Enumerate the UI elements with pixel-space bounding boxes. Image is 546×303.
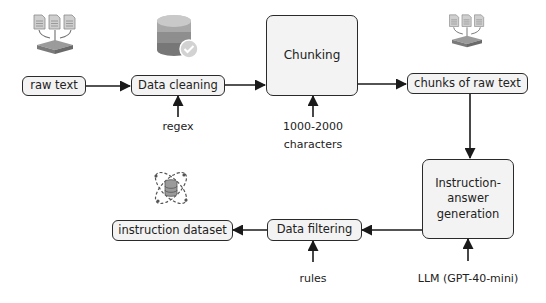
database-orbit-icon: [148, 165, 194, 211]
node-instruction-dataset: instruction dataset: [112, 220, 233, 241]
node-generation-label-line2: answer: [447, 191, 489, 207]
node-instruction-dataset-label: instruction dataset: [118, 223, 227, 239]
input-label-chunk-size: 1000-2000 characters: [268, 118, 358, 153]
node-raw-text: raw text: [22, 76, 86, 96]
node-data-filtering-label: Data filtering: [277, 222, 353, 238]
node-chunks-label: chunks of raw text: [414, 76, 521, 92]
chunk-size-line2: characters: [268, 136, 358, 154]
node-raw-text-label: raw text: [30, 78, 78, 94]
node-chunking-label: Chunking: [284, 47, 341, 63]
input-label-llm: LLM (GPT-40-mini): [413, 271, 523, 288]
chunk-size-line1: 1000-2000: [268, 118, 358, 136]
node-instruction-answer-generation: Instruction- answer generation: [422, 159, 514, 239]
node-data-cleaning-label: Data cleaning: [138, 78, 218, 94]
documents-merge-icon: [447, 13, 487, 50]
node-generation-label-line1: Instruction-: [435, 176, 501, 192]
input-label-rules: rules: [283, 271, 343, 288]
node-data-filtering: Data filtering: [267, 219, 362, 241]
input-label-regex: regex: [148, 119, 208, 136]
node-data-cleaning: Data cleaning: [131, 75, 225, 96]
node-generation-label-line3: generation: [437, 207, 500, 223]
database-check-icon: [154, 13, 200, 61]
documents-merge-icon: [31, 13, 79, 57]
node-chunks-of-raw-text: chunks of raw text: [407, 73, 528, 94]
node-chunking: Chunking: [266, 15, 358, 96]
